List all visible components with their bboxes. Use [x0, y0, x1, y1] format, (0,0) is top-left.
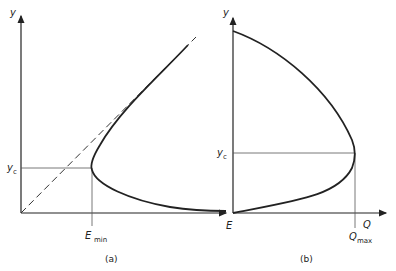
x-axis-label-a: E	[226, 220, 233, 231]
caption-b: (b)	[300, 254, 313, 264]
figure-canvas: y E y c E min (a) y Q y c Q max (b)	[0, 0, 396, 271]
emin-label: E	[85, 230, 92, 241]
qmax-label: Q	[349, 231, 357, 242]
y-axis-label-b: y	[222, 7, 230, 18]
caption-a: (a)	[105, 254, 118, 264]
discharge-curve	[233, 31, 355, 213]
panel-b: y Q y c Q max (b)	[216, 7, 386, 264]
yc-sub-a: c	[13, 168, 17, 176]
qmax-sub: max	[357, 237, 372, 245]
specific-energy-curve	[91, 45, 226, 211]
panel-a: y E y c E min (a)	[6, 7, 233, 264]
y-axis-label-a: y	[9, 7, 17, 18]
x-axis-label-b: Q	[363, 219, 371, 230]
emin-sub: min	[94, 236, 107, 244]
yc-sub-b: c	[223, 153, 227, 161]
